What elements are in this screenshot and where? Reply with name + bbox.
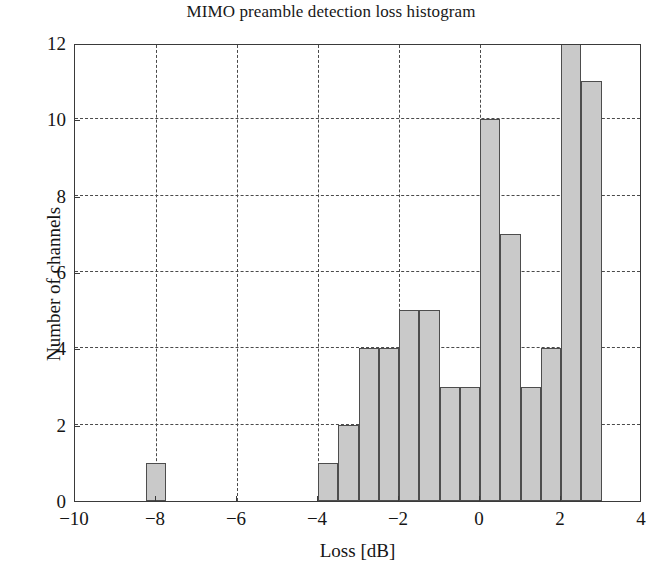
y-axis-tick-mark [74, 120, 80, 121]
x-axis-tick-label: 0 [474, 508, 484, 530]
histogram-bar [338, 425, 358, 501]
y-axis-tick-mark [74, 273, 80, 274]
y-axis-tick-mark [74, 349, 80, 350]
x-axis-tick-mark [398, 496, 399, 502]
histogram-bar [541, 348, 561, 501]
histogram-bar [419, 310, 439, 501]
histogram-bar [440, 387, 460, 502]
histogram-bar [480, 119, 500, 501]
histogram-bar [359, 348, 379, 501]
page-title: MIMO preamble detection loss histogram [0, 2, 662, 22]
histogram-figure: MIMO preamble detection loss histogram −… [0, 0, 662, 575]
histogram-bar [318, 463, 338, 501]
histogram-bar [146, 463, 166, 501]
x-axis-tick-label: −2 [388, 508, 408, 530]
histogram-bar [561, 44, 581, 501]
y-axis-tick-label: 0 [28, 491, 66, 513]
x-axis-label: Loss [dB] [74, 540, 641, 562]
x-axis-tick-label: 2 [555, 508, 565, 530]
histogram-bar [500, 234, 520, 501]
histogram-bar [379, 348, 399, 501]
x-axis-tick-label: 4 [636, 508, 646, 530]
y-axis-tick-mark [74, 197, 80, 198]
bar-series [75, 45, 640, 501]
x-axis-tick-label: −8 [145, 508, 165, 530]
histogram-bar [521, 387, 541, 502]
x-axis-tick-mark [236, 496, 237, 502]
x-axis-tick-label: −4 [307, 508, 327, 530]
plot-area [74, 44, 641, 502]
y-axis-tick-label: 12 [28, 33, 66, 55]
x-axis-tick-mark [155, 496, 156, 502]
x-axis-tick-mark [560, 496, 561, 502]
histogram-bar [581, 81, 601, 501]
x-axis-tick-mark [317, 496, 318, 502]
x-axis-tick-mark [479, 496, 480, 502]
y-axis-label: Number of channels [43, 124, 65, 444]
x-axis-tick-label: −6 [226, 508, 246, 530]
y-axis-tick-mark [74, 426, 80, 427]
histogram-bar [460, 387, 480, 502]
histogram-bar [399, 310, 419, 501]
